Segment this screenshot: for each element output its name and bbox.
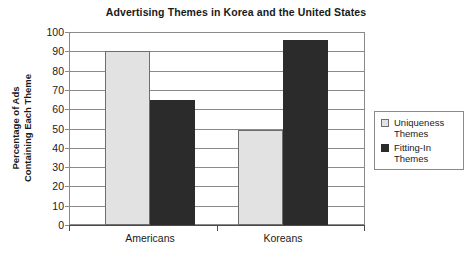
legend-label-uniqueness-line2: Themes bbox=[394, 128, 428, 139]
y-tick-label: 40 bbox=[52, 142, 64, 154]
chart-title: Advertising Themes in Korea and the Unit… bbox=[0, 6, 472, 18]
x-tick-mark bbox=[217, 226, 218, 231]
y-tick-mark bbox=[65, 51, 69, 52]
chart-legend: Uniqueness Themes Fitting-In Themes bbox=[374, 111, 464, 170]
legend-item-fitting-in-themes: Fitting-In Themes bbox=[381, 142, 458, 164]
y-axis-title-line1: Percentage of Ads bbox=[10, 74, 22, 182]
y-axis-title-line2: Containing Each Theme bbox=[22, 74, 34, 182]
y-tick-label: 10 bbox=[52, 200, 64, 212]
legend-label-fitting-in-line2: Themes bbox=[394, 153, 428, 164]
y-tick-label: 50 bbox=[52, 123, 64, 135]
y-tick-mark bbox=[65, 167, 69, 168]
y-tick-mark bbox=[65, 129, 69, 130]
legend-item-uniqueness-themes: Uniqueness Themes bbox=[381, 117, 458, 139]
y-tick-mark bbox=[65, 109, 69, 110]
y-tick-label: 20 bbox=[52, 180, 64, 192]
legend-label-fitting-in: Fitting-In Themes bbox=[394, 142, 431, 164]
y-tick-mark bbox=[65, 71, 69, 72]
y-tick-label: 30 bbox=[52, 161, 64, 173]
legend-swatch-fitting-in-icon bbox=[381, 144, 389, 152]
y-tick-mark bbox=[65, 186, 69, 187]
bar-koreans-uniqueness bbox=[238, 130, 283, 225]
y-tick-label: 100 bbox=[46, 26, 64, 38]
x-tick-label-koreans: Koreans bbox=[263, 232, 302, 244]
y-tick-mark bbox=[65, 206, 69, 207]
y-tick-label: 60 bbox=[52, 103, 64, 115]
x-tick-label-americans: Americans bbox=[125, 232, 175, 244]
y-tick-label: 70 bbox=[52, 84, 64, 96]
y-tick-mark bbox=[65, 148, 69, 149]
y-tick-label: 80 bbox=[52, 65, 64, 77]
y-axis-title: Percentage of Ads Containing Each Theme bbox=[8, 30, 36, 226]
y-tick-label: 90 bbox=[52, 45, 64, 57]
x-tick-mark bbox=[69, 226, 70, 231]
legend-swatch-uniqueness-icon bbox=[381, 119, 389, 127]
bar-chart: Advertising Themes in Korea and the Unit… bbox=[0, 0, 472, 254]
legend-label-uniqueness: Uniqueness Themes bbox=[394, 117, 444, 139]
y-tick-label: 0 bbox=[58, 219, 64, 231]
bar-koreans-fitting-in bbox=[283, 40, 328, 225]
bar-americans-fitting-in bbox=[150, 100, 195, 225]
plot-area: 0102030405060708090100 bbox=[69, 32, 365, 225]
bar-americans-uniqueness bbox=[105, 51, 150, 225]
legend-label-uniqueness-line1: Uniqueness bbox=[394, 117, 444, 128]
legend-label-fitting-in-line1: Fitting-In bbox=[394, 142, 431, 153]
x-tick-mark bbox=[364, 226, 365, 231]
y-tick-mark bbox=[65, 90, 69, 91]
y-tick-mark bbox=[65, 32, 69, 33]
